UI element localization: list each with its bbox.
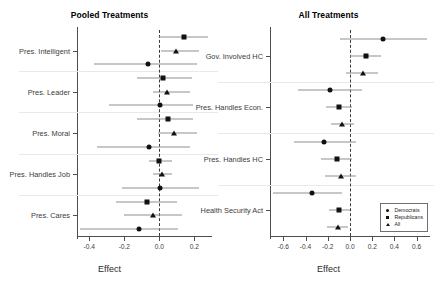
estimate-point-triangle — [335, 225, 341, 230]
zero-reference-line — [350, 30, 351, 236]
x-tick-label: 0.2 — [190, 243, 199, 250]
x-tick-label: -0.4 — [84, 243, 95, 250]
y-tick — [266, 56, 270, 57]
y-axis-label: Pres. Handles Job — [10, 170, 70, 179]
legend-label: All — [394, 221, 400, 228]
y-tick — [73, 133, 77, 134]
x-tick — [124, 237, 125, 241]
category-separator — [218, 185, 434, 186]
estimate-point-square — [181, 35, 186, 40]
x-tick-label: 0.4 — [390, 243, 399, 250]
x-tick — [372, 237, 373, 241]
estimate-point-triangle — [339, 122, 345, 127]
coefficient-plot-figure: Pooled Treatments Pres. IntelligentPres.… — [0, 0, 438, 294]
x-tick-label: 0.0 — [345, 243, 354, 250]
y-axis-label: Pres. Handles Econ. — [196, 103, 263, 112]
estimate-point-circle — [157, 185, 162, 190]
y-axis-label: Pres. Leader — [28, 87, 70, 96]
x-tick-label: 0.2 — [368, 243, 377, 250]
legend: Democrats Republicans All — [380, 203, 428, 232]
square-icon — [384, 216, 391, 219]
x-tick — [328, 237, 329, 241]
x-tick — [283, 237, 284, 241]
panel-pooled-treatments: Pooled Treatments Pres. IntelligentPres.… — [0, 0, 219, 294]
confidence-interval — [109, 105, 193, 106]
estimate-point-square — [160, 76, 165, 81]
confidence-interval — [158, 133, 197, 134]
estimate-point-triangle — [338, 173, 344, 178]
category-separator — [19, 112, 218, 113]
estimate-point-circle — [146, 144, 151, 149]
estimate-point-square — [363, 53, 368, 58]
estimate-point-triangle — [150, 213, 156, 218]
triangle-icon — [384, 223, 391, 226]
estimate-point-circle — [381, 36, 386, 41]
x-tick — [89, 237, 90, 241]
x-tick — [159, 237, 160, 241]
legend-label: Democrats — [394, 207, 419, 214]
x-tick-label: -0.2 — [322, 243, 333, 250]
y-tick — [73, 215, 77, 216]
estimate-point-triangle — [171, 131, 177, 136]
y-tick — [266, 210, 270, 211]
x-tick-label: 0.6 — [412, 243, 421, 250]
estimate-point-circle — [322, 139, 327, 144]
category-separator — [19, 195, 218, 196]
plot-area-left: Pres. IntelligentPres. LeaderPres. Moral… — [77, 30, 212, 236]
legend-label: Republicans — [394, 214, 423, 221]
estimate-point-circle — [158, 103, 163, 108]
confidence-interval — [273, 193, 341, 194]
panel-title-left: Pooled Treatments — [0, 10, 219, 20]
y-axis-label: Pres. Moral — [32, 129, 70, 138]
y-axis-label: Pres. Cares — [31, 211, 70, 220]
category-separator — [19, 154, 218, 155]
y-axis-label: Health Security Act — [201, 206, 263, 215]
estimate-point-circle — [310, 191, 315, 196]
y-tick — [73, 92, 77, 93]
estimate-point-circle — [328, 88, 333, 93]
x-tick-label: -0.4 — [300, 243, 311, 250]
y-tick — [73, 51, 77, 52]
estimate-point-circle — [136, 226, 141, 231]
x-tick-label: -0.6 — [278, 243, 289, 250]
x-tick — [394, 237, 395, 241]
estimate-point-triangle — [164, 89, 170, 94]
x-tick-label: -0.2 — [119, 243, 130, 250]
legend-item: Republicans — [384, 214, 423, 221]
y-tick — [73, 174, 77, 175]
plot-area-right: Democrats Republicans All Gov. Involved … — [270, 30, 430, 236]
x-tick — [350, 237, 351, 241]
legend-item: All — [384, 221, 423, 228]
legend-item: Democrats — [384, 207, 423, 214]
x-axis-title-left: Effect — [0, 264, 219, 274]
estimate-point-square — [337, 105, 342, 110]
x-tick — [306, 237, 307, 241]
panel-title-right: All Treatments — [219, 10, 438, 20]
confidence-interval — [161, 50, 199, 51]
estimate-point-circle — [146, 62, 151, 67]
x-tick — [194, 237, 195, 241]
category-separator — [19, 71, 218, 72]
x-tick — [417, 237, 418, 241]
y-tick — [266, 107, 270, 108]
x-axis-left — [77, 236, 212, 237]
confidence-interval — [153, 91, 190, 92]
category-separator — [218, 133, 434, 134]
estimate-point-triangle — [360, 70, 366, 75]
estimate-point-triangle — [159, 172, 165, 177]
estimate-point-square — [337, 208, 342, 213]
confidence-interval — [97, 146, 190, 147]
confidence-interval — [80, 228, 178, 229]
category-separator — [218, 82, 434, 83]
y-axis-label: Pres. Intelligent — [19, 46, 70, 55]
circle-icon — [384, 209, 391, 212]
estimate-point-square — [145, 199, 150, 204]
y-axis-label: Gov. Involved HC — [206, 51, 263, 60]
panel-all-treatments: All Treatments Democrats Republicans All… — [219, 0, 438, 294]
estimate-point-triangle — [173, 48, 179, 53]
estimate-point-square — [157, 158, 162, 163]
estimate-point-square — [334, 156, 339, 161]
x-axis-title-right: Effect — [219, 264, 438, 274]
y-axis-left — [77, 27, 78, 239]
x-tick-label: 0.0 — [155, 243, 164, 250]
